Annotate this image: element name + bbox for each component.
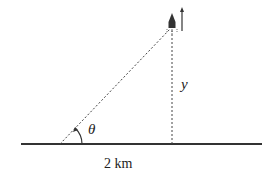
height-label: y <box>179 76 188 92</box>
distance-label: 2 km <box>104 156 133 171</box>
sightline-dashed <box>60 29 170 144</box>
angle-label: θ <box>88 121 96 137</box>
up-arrow-icon <box>180 7 184 31</box>
rocket-angle-diagram: θ y 2 km <box>0 0 266 187</box>
